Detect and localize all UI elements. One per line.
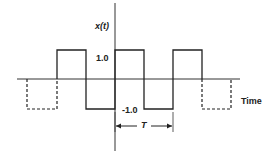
square-wave-diagram: [0, 0, 276, 159]
square-wave-dashed-right: [202, 79, 231, 109]
high-level-label: 1.0: [96, 53, 109, 63]
x-axis-label: Time: [241, 96, 262, 106]
square-wave-dashed-left: [27, 79, 57, 109]
y-axis-label: x(t): [95, 21, 109, 31]
low-level-label: -1.0: [122, 105, 138, 115]
period-label: T: [141, 120, 147, 130]
arrowhead-right-icon: [167, 124, 172, 129]
arrowhead-left-icon: [116, 124, 121, 129]
